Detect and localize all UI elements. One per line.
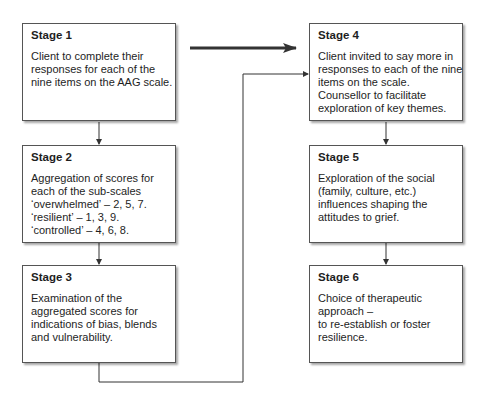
- stage-4-box: Stage 4 Client invited to say more in re…: [309, 23, 463, 121]
- text-line: indications of bias, blends: [31, 318, 167, 331]
- text-line: ‘resilient’ – 1, 3, 9.: [31, 211, 167, 224]
- text-line: Counsellor to facilitate: [318, 89, 454, 102]
- text-line: ‘controlled’ – 4, 6, 8.: [31, 224, 167, 237]
- text-line: exploration of key themes.: [318, 102, 454, 115]
- text-line: to re-establish or foster: [318, 318, 454, 331]
- stage-5-title: Stage 5: [318, 151, 454, 163]
- stage-4-title: Stage 4: [318, 29, 454, 41]
- text-line: Choice of therapeutic: [318, 292, 454, 305]
- stage-1-box: Stage 1 Client to complete their respons…: [22, 23, 176, 121]
- stage-6-box: Stage 6 Choice of therapeutic approach –…: [309, 265, 463, 363]
- stage-3-title: Stage 3: [31, 271, 167, 283]
- stage-3-box: Stage 3 Examination of the aggregated sc…: [22, 265, 176, 363]
- stage-6-title: Stage 6: [318, 271, 454, 283]
- stage-5-text: Exploration of the social (family, cultu…: [318, 172, 454, 224]
- text-line: attitudes to grief.: [318, 211, 454, 224]
- text-line: and vulnerability.: [31, 331, 167, 344]
- text-line: items on the scale.: [318, 76, 454, 89]
- text-line: Client to complete their: [31, 50, 167, 63]
- text-line: (family, culture, etc.): [318, 185, 454, 198]
- text-line: responses to each of the nine: [318, 63, 454, 76]
- stage-3-text: Examination of the aggregated scores for…: [31, 292, 167, 344]
- stage-4-text: Client invited to say more in responses …: [318, 50, 454, 115]
- stage-1-title: Stage 1: [31, 29, 167, 41]
- stage-6-text: Choice of therapeutic approach – to re-e…: [318, 292, 454, 344]
- text-line: resilience.: [318, 331, 454, 344]
- stage-2-box: Stage 2 Aggregation of scores for each o…: [22, 145, 176, 243]
- stage-2-text: Aggregation of scores for each of the su…: [31, 172, 167, 237]
- text-line: Examination of the: [31, 292, 167, 305]
- text-line: nine items on the AAG scale.: [31, 76, 167, 89]
- text-line: each of the sub-scales: [31, 185, 167, 198]
- text-line: aggregated scores for: [31, 305, 167, 318]
- text-line: approach –: [318, 305, 454, 318]
- text-line: Client invited to say more in: [318, 50, 454, 63]
- stage-1-text: Client to complete their responses for e…: [31, 50, 167, 89]
- text-line: responses for each of the: [31, 63, 167, 76]
- text-line: ‘overwhelmed’ – 2, 5, 7.: [31, 198, 167, 211]
- stage-2-title: Stage 2: [31, 151, 167, 163]
- text-line: Exploration of the social: [318, 172, 454, 185]
- stage-5-box: Stage 5 Exploration of the social (famil…: [309, 145, 463, 243]
- text-line: Aggregation of scores for: [31, 172, 167, 185]
- text-line: influences shaping the: [318, 198, 454, 211]
